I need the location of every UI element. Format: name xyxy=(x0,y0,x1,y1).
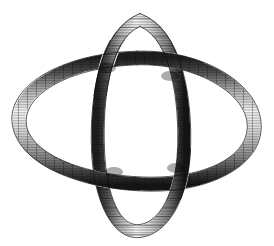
crossing-top-left xyxy=(98,63,116,73)
crossing-top-right xyxy=(161,71,179,81)
knot-figure: Interlocking Double Loop Knot Engraved-s… xyxy=(0,0,274,246)
figure-background xyxy=(0,0,274,246)
crossing-bottom-right xyxy=(167,163,185,173)
crossing-bottom-left xyxy=(105,167,123,177)
knot-diagram xyxy=(0,0,274,246)
